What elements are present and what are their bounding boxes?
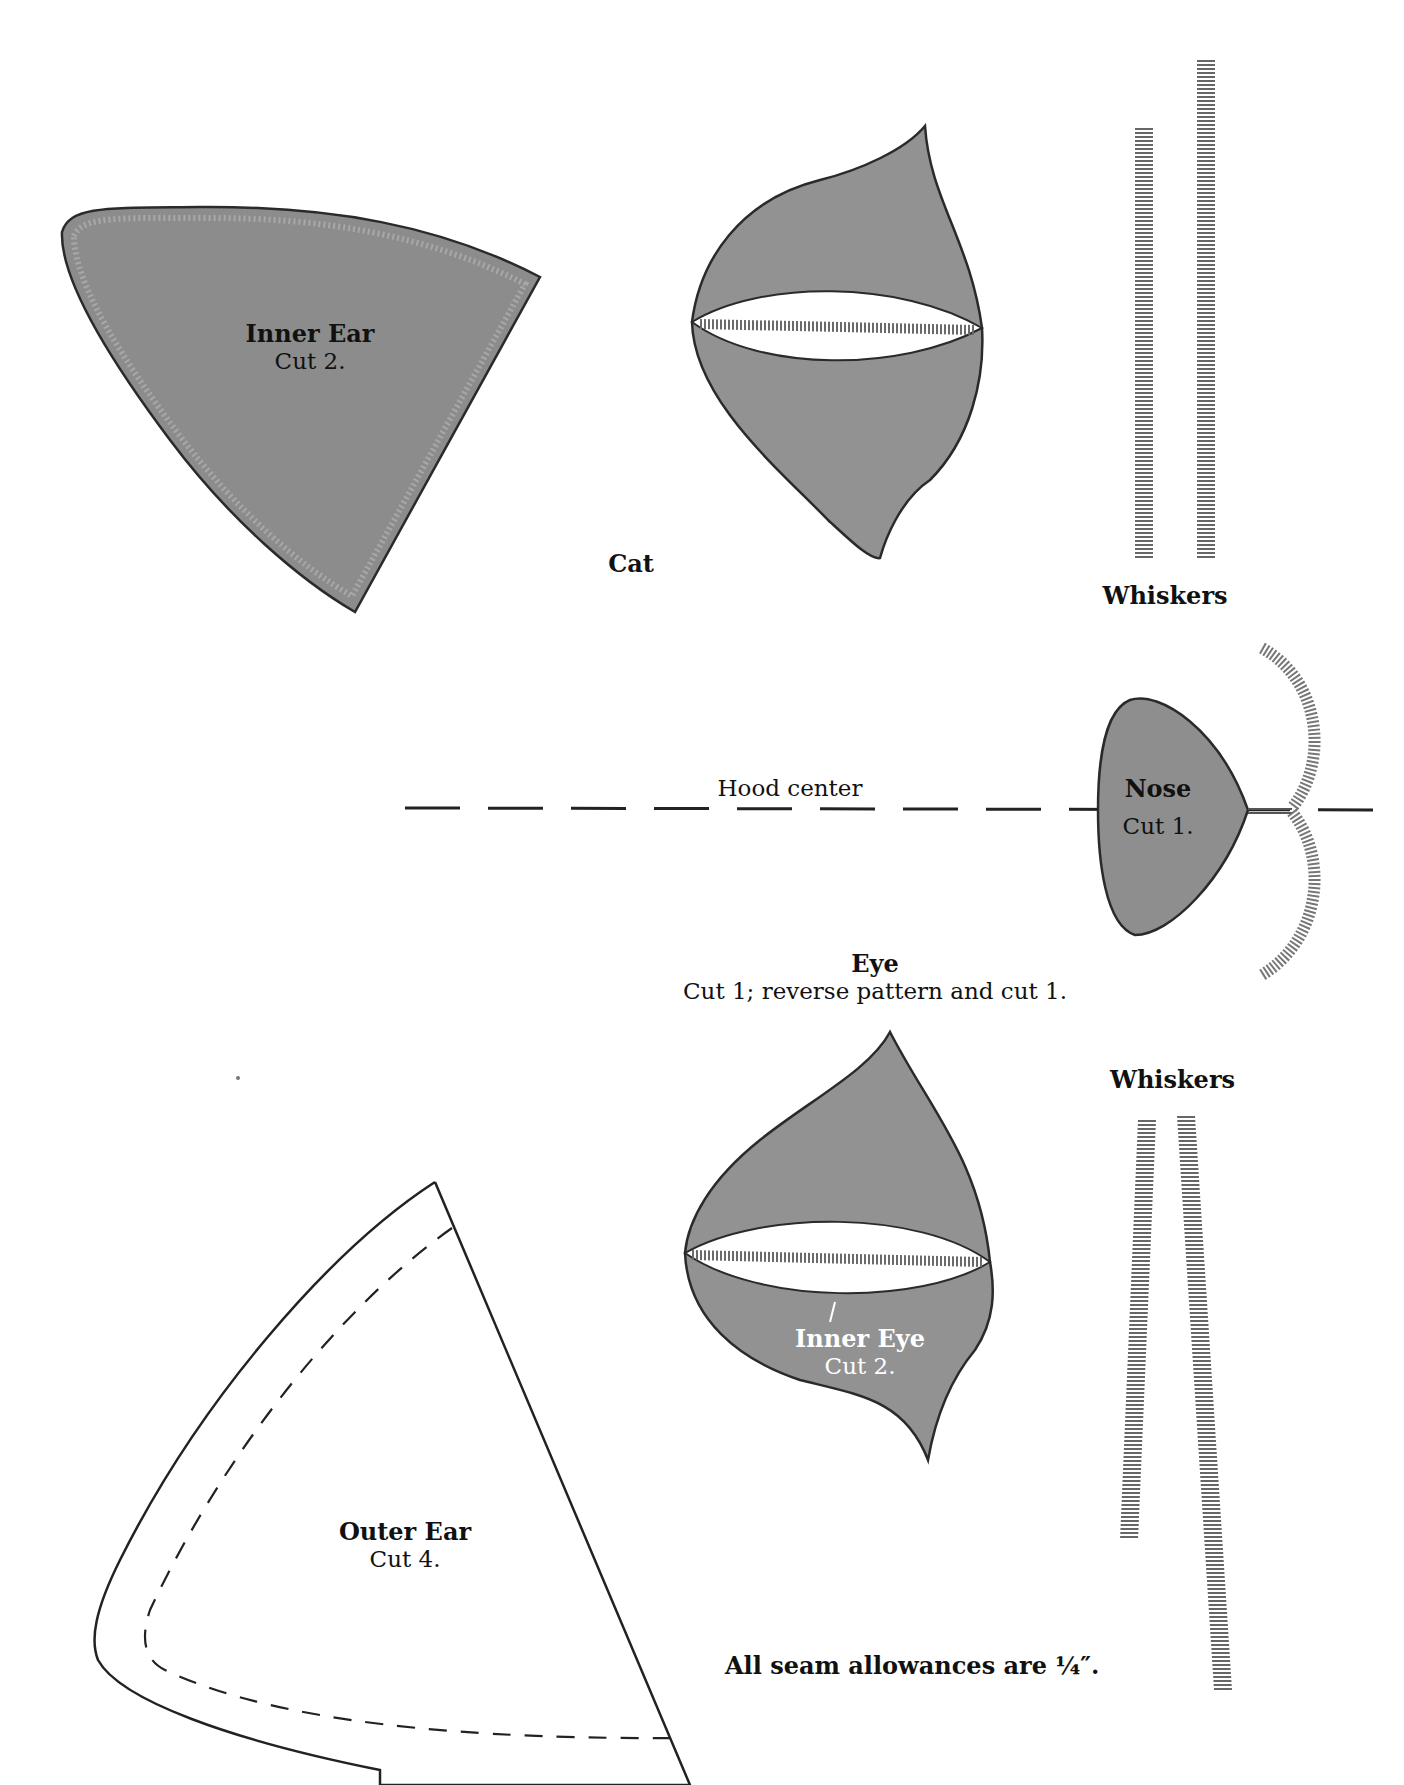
- whiskers-bottom-strips: [1120, 1116, 1232, 1690]
- eye-instruction: Cut 1; reverse pattern and cut 1.: [640, 978, 1110, 1004]
- nose-label: Nose Cut 1.: [1108, 775, 1208, 839]
- eye-label: Eye Cut 1; reverse pattern and cut 1.: [640, 950, 1110, 1004]
- outer-ear-piece: [94, 1182, 690, 1785]
- inner-ear-instruction: Cut 2.: [220, 348, 400, 374]
- outer-ear-label: Outer Ear Cut 4.: [310, 1518, 500, 1572]
- whiskers-top-strips: [1135, 58, 1215, 558]
- pattern-title: Cat: [596, 550, 666, 578]
- whiskers-bottom-label: Whiskers: [1090, 1066, 1255, 1094]
- eye-name: Eye: [640, 950, 1110, 978]
- inner-ear-name: Inner Ear: [220, 320, 400, 348]
- nose-name: Nose: [1108, 775, 1208, 803]
- eye-piece-bottom: [685, 1032, 993, 1460]
- nose-instruction: Cut 1.: [1108, 813, 1208, 839]
- inner-ear-piece: [62, 207, 540, 612]
- pattern-page: Inner Ear Cut 2. Cat Whiskers Hood cente…: [0, 0, 1404, 1785]
- inner-eye-instruction: Cut 2.: [770, 1353, 950, 1379]
- inner-eye-label: Inner Eye Cut 2.: [770, 1325, 950, 1379]
- pattern-artwork: [0, 0, 1404, 1785]
- inner-eye-name: Inner Eye: [770, 1325, 950, 1353]
- inner-ear-label: Inner Ear Cut 2.: [220, 320, 400, 374]
- outer-ear-instruction: Cut 4.: [310, 1546, 500, 1572]
- seam-allowance-note: All seam allowances are ¼″.: [725, 1652, 1145, 1680]
- outer-ear-name: Outer Ear: [310, 1518, 500, 1546]
- hood-center-label: Hood center: [700, 775, 880, 801]
- whiskers-top-label: Whiskers: [1085, 582, 1245, 610]
- eye-piece-top: [692, 126, 982, 558]
